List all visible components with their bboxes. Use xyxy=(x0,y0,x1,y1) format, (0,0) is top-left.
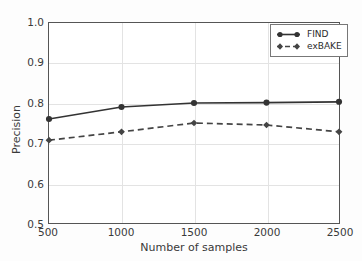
legend-sample-exbake xyxy=(275,41,302,52)
x-tick-label: 1500 xyxy=(181,226,208,238)
data-point-find xyxy=(118,104,124,110)
legend-label: exBAKE xyxy=(307,41,342,52)
data-point-find xyxy=(263,100,269,106)
legend: FIND exBAKE xyxy=(270,24,348,57)
data-point-exbake xyxy=(191,120,198,127)
x-tick-label: 2000 xyxy=(254,226,281,238)
legend-sample-find xyxy=(275,29,302,40)
x-tick-label: 2500 xyxy=(327,226,354,238)
plot-area: FIND exBAKE xyxy=(48,22,340,224)
data-point-exbake xyxy=(46,137,53,144)
legend-entry-find: FIND xyxy=(275,29,342,40)
legend-label: FIND xyxy=(307,29,329,40)
data-point-find xyxy=(191,100,197,106)
data-point-find xyxy=(46,116,52,122)
x-tick-label: 1000 xyxy=(108,226,135,238)
x-tick-label: 500 xyxy=(38,226,58,238)
y-axis-label: Precision xyxy=(10,70,23,190)
y-tick-label: 1.0 xyxy=(4,16,44,28)
y-tick-label: 0.9 xyxy=(4,56,44,68)
x-axis-label: Number of samples xyxy=(48,241,340,254)
legend-entry-exbake: exBAKE xyxy=(275,41,342,52)
data-point-exbake xyxy=(336,128,343,135)
data-point-find xyxy=(336,99,342,105)
data-point-exbake xyxy=(263,122,270,129)
chart-figure: 0.5 0.6 0.7 0.8 0.9 1.0 500 1000 1500 20… xyxy=(0,0,362,261)
data-point-exbake xyxy=(118,128,125,135)
